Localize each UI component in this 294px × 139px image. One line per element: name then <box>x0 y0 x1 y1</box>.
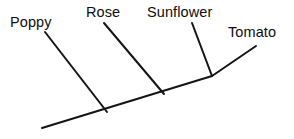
poppy-branch-line <box>45 32 107 112</box>
tomato-branch-line <box>212 46 256 76</box>
taxon-label-poppy: Poppy <box>10 15 52 30</box>
rose-branch-line <box>104 23 164 94</box>
taxon-label-sunflower: Sunflower <box>147 5 212 20</box>
sunflower-branch-line <box>192 23 212 76</box>
taxon-label-tomato: Tomato <box>228 25 276 40</box>
cladogram-figure: Poppy Rose Sunflower Tomato <box>0 0 294 139</box>
main-backbone-line <box>42 76 212 128</box>
taxon-label-rose: Rose <box>86 5 120 20</box>
